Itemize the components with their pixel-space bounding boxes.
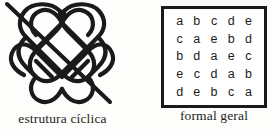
table-cell: e xyxy=(223,48,240,65)
table-cell: d xyxy=(171,84,188,101)
table-row: c a e b d xyxy=(171,31,257,48)
table-cell: d xyxy=(223,13,240,30)
table-cell: a xyxy=(188,31,205,48)
table-cell: e xyxy=(171,66,188,83)
table-row: d e b c a xyxy=(171,84,257,101)
table-cell: a xyxy=(240,84,257,101)
cyclic-structure-figure: estrutura cíclica xyxy=(0,0,139,135)
table-cell: e xyxy=(205,31,222,48)
table-cell: b xyxy=(171,48,188,65)
table-cell: e xyxy=(240,13,257,30)
latin-square-body: a b c d e c a e b d b d a e xyxy=(164,9,264,105)
table-cell: d xyxy=(205,66,222,83)
table-cell: d xyxy=(188,48,205,65)
table-cell: b xyxy=(205,84,222,101)
table-cell: b xyxy=(223,31,240,48)
table-cell: c xyxy=(171,31,188,48)
table-cell: d xyxy=(240,31,257,48)
table-cell: a xyxy=(205,48,222,65)
table-cell: a xyxy=(223,66,240,83)
table-cell: c xyxy=(223,84,240,101)
celtic-knot-icon xyxy=(2,1,122,111)
table-cell: b xyxy=(240,66,257,83)
table-cell: e xyxy=(188,84,205,101)
table-cell: a xyxy=(171,13,188,30)
table-row: b d a e c xyxy=(171,48,257,65)
general-form-figure: a b c d e c a e b d b d a e xyxy=(139,0,278,135)
table-row: a b c d e xyxy=(171,13,257,30)
general-form-caption: formal geral xyxy=(162,108,266,124)
table-row: e c d a b xyxy=(171,66,257,83)
cyclic-structure-caption: estrutura cíclica xyxy=(0,111,125,127)
figure-pair-page: estrutura cíclica a b c d e c a e b d xyxy=(0,0,278,135)
table-cell: b xyxy=(188,13,205,30)
table-cell: c xyxy=(188,66,205,83)
table-cell: c xyxy=(240,48,257,65)
latin-square-table: a b c d e c a e b d b d a e xyxy=(162,7,266,107)
table-cell: c xyxy=(205,13,222,30)
